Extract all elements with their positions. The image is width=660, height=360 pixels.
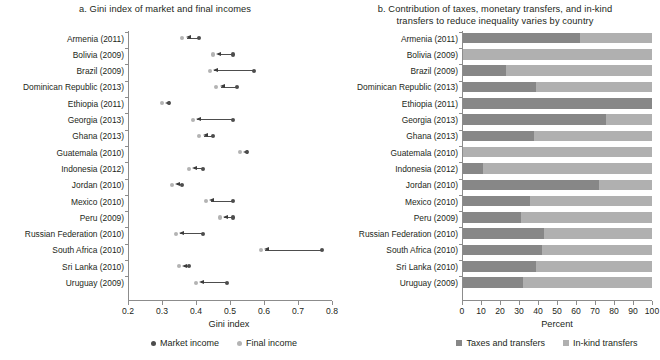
panel-a-market-income-dot xyxy=(211,134,215,138)
panel-b-bar xyxy=(462,261,652,272)
panel-a-category-label: South Africa (2010) xyxy=(52,246,124,254)
panel-a-x-tick-label: 0.4 xyxy=(182,307,210,316)
panel-a-category-tick xyxy=(125,81,129,82)
panel-a-legend-item[interactable]: Final income xyxy=(237,338,297,348)
panel-a-category-label: Bolivia (2009) xyxy=(73,51,124,59)
panel-a-category-tick xyxy=(125,244,129,245)
panel-a-arrowhead-icon xyxy=(216,52,221,56)
panel-a-final-income-dot xyxy=(238,150,242,154)
panel-a-category-tick xyxy=(125,146,129,147)
panel-b-bar xyxy=(462,114,652,125)
panel-b-axis-title: Percent xyxy=(330,319,660,329)
panel-a-category-tick xyxy=(125,179,129,180)
panel-a-x-tick-label: 0.6 xyxy=(250,307,278,316)
panel-b-x-tick-label: 100 xyxy=(638,307,660,316)
panel-b-bar xyxy=(462,82,652,93)
panel-b-bar xyxy=(462,98,652,109)
panel-a-category-label: Ghana (2013) xyxy=(72,132,124,140)
panel-b-category-tick xyxy=(459,227,463,228)
panel-b-legend-label: In-kind transfers xyxy=(573,338,638,348)
panel-b-x-tick xyxy=(519,301,520,305)
panel-a-final-income-dot xyxy=(170,183,174,187)
panel-a-market-income-dot xyxy=(252,69,256,73)
panel-b-segment-taxes-and-transfers xyxy=(462,82,536,93)
panel-a-category-label: Jordan (2010) xyxy=(72,181,124,189)
panel-a-x-tick xyxy=(162,301,163,305)
panel-b-legend-label: Taxes and transfers xyxy=(466,338,545,348)
panel-a-arrowhead-icon xyxy=(192,166,197,170)
panel-b-category-label: Jordan (2010) xyxy=(406,181,458,189)
panel-b-segment-taxes-and-transfers xyxy=(462,212,521,223)
panel-b-bar xyxy=(462,180,652,191)
panel-a-final-income-dot xyxy=(177,264,181,268)
panel-a-x-tick-label: 0.3 xyxy=(148,307,176,316)
panel-a-connector-line xyxy=(197,119,233,120)
panel-b-category-label: Mexico (2010) xyxy=(405,198,458,206)
panel-a-market-income-dot xyxy=(245,150,249,154)
panel-b-legend-item[interactable]: Taxes and transfers xyxy=(456,338,545,348)
panel-a-axis-title: Gini index xyxy=(0,319,330,329)
panel-b-category-tick xyxy=(459,81,463,82)
panel-b-y-spine xyxy=(462,31,463,300)
panel-a-category-tick xyxy=(125,97,129,98)
panel-a-legend-item[interactable]: Market income xyxy=(151,338,219,348)
panel-b-category-label: Armenia (2011) xyxy=(401,35,458,43)
panel-b-contribution: b. Contribution of taxes, monetary trans… xyxy=(330,0,660,360)
panel-b-segment-taxes-and-transfers xyxy=(462,114,606,125)
panel-a-x-tick xyxy=(264,301,265,305)
panel-a-final-income-dot xyxy=(187,167,191,171)
panel-b-segment-in-kind-transfers xyxy=(483,163,652,174)
panel-a-category-label: Mexico (2010) xyxy=(71,198,124,206)
panel-b-category-label: Dominican Republic (2013) xyxy=(357,83,458,91)
panel-b-title-line-1: b. Contribution of taxes, monetary trans… xyxy=(336,4,654,16)
panel-a-market-income-dot xyxy=(225,281,229,285)
panel-b-category-label: Peru (2009) xyxy=(414,214,458,222)
panel-b-bar xyxy=(462,147,652,158)
panel-b-segment-taxes-and-transfers xyxy=(462,33,580,44)
panel-a-final-income-dot xyxy=(191,118,195,122)
panel-b-category-label: South Africa (2010) xyxy=(386,246,458,254)
panel-a-category-label: Uruguay (2009) xyxy=(66,279,124,287)
panel-a-category-label: Russian Federation (2010) xyxy=(25,230,124,238)
panel-b-x-tick xyxy=(633,301,634,305)
panel-b-x-tick xyxy=(614,301,615,305)
panel-b-category-tick xyxy=(459,162,463,163)
panel-a-x-tick-label: 0.7 xyxy=(284,307,312,316)
panel-a-x-tick xyxy=(298,301,299,305)
panel-a-category-tick xyxy=(125,113,129,114)
panel-b-bar xyxy=(462,212,652,223)
panel-a-arrowhead-icon xyxy=(223,215,228,219)
panel-a-market-income-dot xyxy=(167,101,171,105)
panel-a-title: a. Gini index of market and final income… xyxy=(6,4,324,16)
panel-a-connector-line xyxy=(265,250,322,251)
panel-a-final-income-dot xyxy=(174,232,178,236)
panel-a-arrowhead-icon xyxy=(199,280,204,284)
panel-a-legend-swatch-icon xyxy=(151,341,156,346)
panel-b-segment-in-kind-transfers xyxy=(462,147,652,158)
panel-b-category-tick xyxy=(459,260,463,261)
panel-b-bar xyxy=(462,131,652,142)
panel-a-x-tick xyxy=(128,301,129,305)
panel-b-category-label: Indonesia (2012) xyxy=(395,165,458,173)
panel-a-category-label: Indonesia (2012) xyxy=(61,165,124,173)
figure-root: a. Gini index of market and final income… xyxy=(0,0,660,360)
panel-b-category-tick xyxy=(459,211,463,212)
panel-a-category-label: Guatemala (2010) xyxy=(56,149,124,157)
panel-a-arrowhead-icon xyxy=(209,198,214,202)
panel-b-bar xyxy=(462,196,652,207)
panel-b-segment-taxes-and-transfers xyxy=(462,65,506,76)
panel-b-segment-taxes-and-transfers xyxy=(462,196,530,207)
panel-a-arrowhead-icon xyxy=(196,117,201,121)
panel-b-segment-taxes-and-transfers xyxy=(462,163,483,174)
panel-a-final-income-dot xyxy=(160,101,164,105)
panel-b-segment-taxes-and-transfers xyxy=(462,131,534,142)
panel-b-category-tick xyxy=(459,195,463,196)
panel-b-title: b. Contribution of taxes, monetary trans… xyxy=(336,4,654,27)
panel-a-market-income-dot xyxy=(201,167,205,171)
panel-b-category-label: Bolivia (2009) xyxy=(407,51,458,59)
panel-a-market-income-dot xyxy=(187,264,191,268)
panel-b-legend-item[interactable]: In-kind transfers xyxy=(563,338,638,348)
panel-a-market-income-dot xyxy=(231,52,235,56)
panel-a-category-tick xyxy=(125,130,129,131)
panel-a-connector-line xyxy=(214,70,254,71)
